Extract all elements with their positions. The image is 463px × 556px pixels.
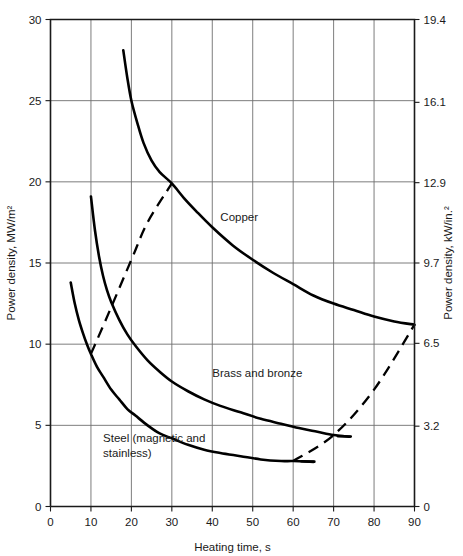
x-tick-label: 10 xyxy=(85,516,98,528)
axis-titles-layer: Heating time, sPower density, MW/m²Power… xyxy=(5,205,454,552)
trend-line xyxy=(293,325,414,461)
y2-tick-label: 9.7 xyxy=(424,257,440,269)
series-label-line: stainless) xyxy=(103,447,152,459)
y-tick-label: 15 xyxy=(29,257,42,269)
y-tick-label: 5 xyxy=(35,419,41,431)
y-tick-label: 0 xyxy=(35,501,41,513)
x-tick-label: 0 xyxy=(47,516,53,528)
x-axis-title: Heating time, s xyxy=(194,541,271,553)
y2-tick-label: 3.2 xyxy=(424,420,440,432)
series-label: Brass and bronze xyxy=(212,367,302,379)
x-tick-label: 50 xyxy=(246,516,259,528)
y-tick-label: 25 xyxy=(29,95,42,107)
series-curve xyxy=(91,196,350,436)
chart-figure: 010203040506070809005101520253003.26.59.… xyxy=(0,0,463,556)
y2-axis-title: Power density, kW/in.² xyxy=(442,206,454,320)
series-label-line: Brass and bronze xyxy=(212,367,302,379)
y-tick-label: 20 xyxy=(29,176,42,188)
x-tick-label: 40 xyxy=(206,516,219,528)
curves-layer xyxy=(71,50,415,462)
x-tick-label: 90 xyxy=(408,516,421,528)
y-tick-label: 30 xyxy=(29,14,42,26)
x-tick-label: 70 xyxy=(327,516,340,528)
series-label-line: Copper xyxy=(220,211,258,223)
series-curve xyxy=(123,50,414,324)
y2-tick-label: 19.4 xyxy=(424,14,447,26)
x-tick-label: 60 xyxy=(287,516,300,528)
series-label-line: Steel (magnetic and xyxy=(103,432,205,444)
series-label: Copper xyxy=(220,211,258,223)
y2-tick-label: 16.1 xyxy=(424,96,446,108)
y2-tick-label: 12.9 xyxy=(424,177,446,189)
y-axis-title: Power density, MW/m² xyxy=(5,205,17,320)
y-tick-label: 10 xyxy=(29,338,42,350)
y2-tick-label: 6.5 xyxy=(424,337,440,349)
power-density-vs-heating-time-chart: 010203040506070809005101520253003.26.59.… xyxy=(0,0,463,556)
y2-tick-label: 0 xyxy=(424,501,430,513)
x-tick-label: 80 xyxy=(368,516,381,528)
x-tick-label: 30 xyxy=(165,516,178,528)
x-tick-label: 20 xyxy=(125,516,138,528)
